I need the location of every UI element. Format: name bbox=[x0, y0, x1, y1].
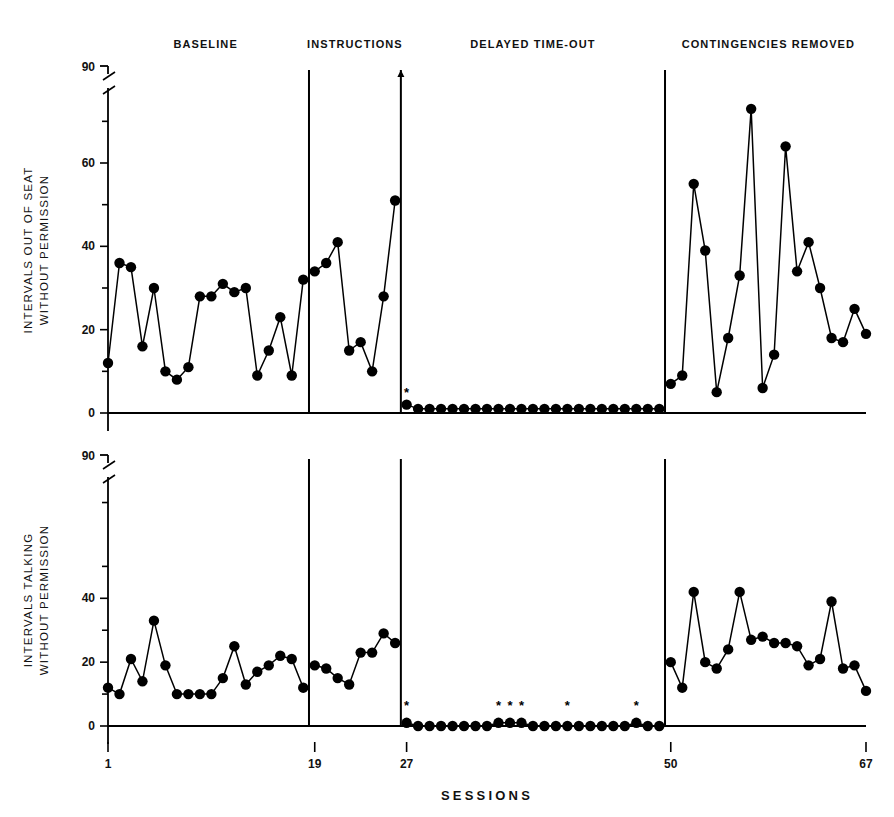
data-point bbox=[780, 638, 790, 648]
data-point bbox=[310, 660, 320, 670]
data-point bbox=[241, 283, 251, 293]
data-point bbox=[298, 682, 308, 692]
phase-label-1: INSTRUCTIONS bbox=[307, 38, 403, 50]
data-point bbox=[126, 262, 136, 272]
data-point bbox=[643, 404, 653, 414]
data-point bbox=[493, 718, 503, 728]
data-point bbox=[195, 689, 205, 699]
y-tick-label-0: 0 bbox=[88, 719, 95, 733]
x-tick-label-50: 50 bbox=[664, 757, 678, 771]
phase-label-0: BASELINE bbox=[173, 38, 237, 50]
data-point bbox=[355, 647, 365, 657]
data-point bbox=[229, 641, 239, 651]
data-point bbox=[149, 283, 159, 293]
data-point bbox=[539, 404, 549, 414]
y-tick-label-90: 90 bbox=[82, 449, 96, 463]
data-line-contingencies-removed bbox=[671, 592, 866, 691]
data-point bbox=[654, 404, 664, 414]
data-point bbox=[815, 283, 825, 293]
data-point bbox=[321, 663, 331, 673]
data-point bbox=[723, 333, 733, 343]
data-point bbox=[631, 404, 641, 414]
data-point bbox=[620, 404, 630, 414]
data-point bbox=[608, 721, 618, 731]
data-point bbox=[344, 679, 354, 689]
data-point bbox=[574, 404, 584, 414]
data-point bbox=[516, 404, 526, 414]
significance-asterisk: * bbox=[496, 698, 502, 713]
data-point bbox=[183, 689, 193, 699]
data-point bbox=[241, 679, 251, 689]
y-axis-title-line2: WITHOUT PERMISSION bbox=[38, 525, 50, 675]
data-point bbox=[390, 195, 400, 205]
data-point bbox=[344, 345, 354, 355]
phase-divider-arrow bbox=[397, 70, 404, 77]
data-point bbox=[539, 721, 549, 731]
panel-out-of-seat: 020406090INTERVALS OUT OF SEATWITHOUT PE… bbox=[22, 60, 871, 431]
data-point bbox=[700, 657, 710, 667]
data-point bbox=[264, 660, 274, 670]
data-point bbox=[551, 721, 561, 731]
data-point bbox=[310, 266, 320, 276]
data-point bbox=[838, 663, 848, 673]
data-point bbox=[114, 689, 124, 699]
data-point bbox=[597, 721, 607, 731]
data-point bbox=[734, 587, 744, 597]
data-point bbox=[114, 258, 124, 268]
significance-asterisk: * bbox=[519, 698, 525, 713]
data-point bbox=[551, 404, 561, 414]
data-point bbox=[195, 291, 205, 301]
data-point bbox=[631, 718, 641, 728]
data-point bbox=[218, 673, 228, 683]
x-tick-label-67: 67 bbox=[859, 757, 873, 771]
data-line-baseline bbox=[108, 621, 303, 694]
data-point bbox=[608, 404, 618, 414]
data-point bbox=[378, 628, 388, 638]
phase-label-2: DELAYED TIME-OUT bbox=[470, 38, 595, 50]
data-point bbox=[218, 279, 228, 289]
data-point bbox=[482, 721, 492, 731]
data-point bbox=[332, 673, 342, 683]
figure-container: 020406090INTERVALS OUT OF SEATWITHOUT PE… bbox=[0, 0, 894, 817]
data-line-instructions bbox=[315, 201, 395, 372]
y-tick-label-40: 40 bbox=[82, 239, 96, 253]
data-point bbox=[689, 179, 699, 189]
data-point bbox=[378, 291, 388, 301]
data-point bbox=[516, 718, 526, 728]
data-point bbox=[436, 721, 446, 731]
data-point bbox=[332, 237, 342, 247]
y-axis-title: INTERVALS OUT OF SEATWITHOUT PERMISSION bbox=[22, 167, 50, 334]
axis-break-mark-upper bbox=[103, 461, 115, 469]
y-axis-title-line1: INTERVALS TALKING bbox=[22, 533, 34, 668]
data-point bbox=[803, 660, 813, 670]
significance-asterisk: * bbox=[634, 698, 640, 713]
data-point bbox=[666, 379, 676, 389]
data-point bbox=[298, 274, 308, 284]
data-point bbox=[447, 721, 457, 731]
significance-asterisk: * bbox=[404, 385, 410, 400]
data-line-baseline bbox=[108, 263, 303, 380]
phase-label-3: CONTINGENCIES REMOVED bbox=[682, 38, 855, 50]
data-point bbox=[401, 399, 411, 409]
data-point bbox=[711, 663, 721, 673]
data-point bbox=[390, 638, 400, 648]
y-tick-label-40: 40 bbox=[82, 591, 96, 605]
axis-break-mark-upper bbox=[103, 72, 115, 80]
data-point bbox=[447, 404, 457, 414]
data-point bbox=[367, 366, 377, 376]
data-point bbox=[206, 291, 216, 301]
data-point bbox=[367, 647, 377, 657]
data-point bbox=[792, 641, 802, 651]
y-tick-label-20: 20 bbox=[82, 655, 96, 669]
x-axis-group: 119275067SESSIONS bbox=[105, 742, 873, 803]
data-point bbox=[677, 682, 687, 692]
data-point bbox=[746, 104, 756, 114]
data-point bbox=[172, 374, 182, 384]
data-point bbox=[826, 596, 836, 606]
data-point bbox=[643, 721, 653, 731]
data-point bbox=[275, 651, 285, 661]
data-point bbox=[677, 370, 687, 380]
data-point bbox=[838, 337, 848, 347]
data-point bbox=[183, 362, 193, 372]
x-tick-label-19: 19 bbox=[308, 757, 322, 771]
